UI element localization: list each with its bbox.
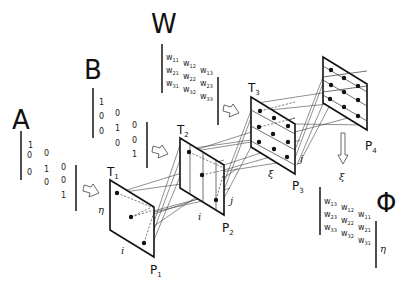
phi-axis-eta: η [380,243,386,254]
matrix-w: W w11 w12 w13 w21 w22 w23 w31 w32 w33 [151,9,218,125]
p2-axis-i: i [198,211,201,222]
svg-text:w11: w11 [166,53,179,63]
matrix-a-cell: 0 [61,176,66,185]
t3-label: T3 [247,81,260,97]
plane-p4: P4 [323,57,377,155]
matrix-b-cell: 0 [99,127,104,136]
arrow-w-to-p3-icon [223,104,239,117]
p4-label: P4 [365,139,377,155]
p3-axis-j: j [298,153,303,164]
svg-text:w31: w31 [358,236,371,246]
svg-text:w32: w32 [341,229,354,239]
svg-text:w22: w22 [341,216,354,226]
plane-p2: T2 P2 i j [176,123,234,237]
svg-text:w33: w33 [200,92,213,102]
p2-node [187,150,191,154]
p2-axis-j: j [228,195,233,206]
matrix-a-cell: 0 [44,178,49,187]
p2-node [200,173,204,177]
matrix-b: B 1 0 0 0 1 0 0 0 1 [84,55,147,168]
p1-node [129,215,133,219]
matrix-b-cell: 0 [132,136,137,145]
svg-text:w13: w13 [200,66,213,76]
svg-text:w13: w13 [324,197,337,207]
matrix-phi: Φ η w13 w12 w11 w23 w22 w21 w33 w32 w31 [320,187,396,268]
svg-text:w23: w23 [200,79,213,89]
p1-axis-eta: η [98,204,104,215]
p1-axis-i: i [121,245,124,256]
t2-label: T2 [176,123,189,139]
matrix-a-cell: 0 [44,149,49,158]
matrix-a-cell: 1 [61,191,66,200]
output-axis-xi: ξ [339,171,345,182]
matrix-a-cell: 0 [27,168,32,177]
p2-label: P2 [222,221,234,237]
matrix-a-cell: 0 [61,163,66,172]
matrix-a-cell: 1 [28,141,33,150]
p2-node [214,198,218,202]
svg-text:w21: w21 [166,66,179,76]
diagram-canvas: A 1 0 0 0 1 0 0 0 1 B 1 0 0 0 1 0 0 0 1 … [0,0,414,289]
matrix-phi-label: Φ [376,188,396,218]
matrix-a-cell: 0 [27,151,32,160]
matrix-b-cell: 1 [115,124,120,133]
matrix-a-cell: 1 [44,165,49,174]
matrix-b-label: B [84,55,102,85]
plane-p3: T3 P3 ξ j [247,81,304,195]
matrix-b-cell: 1 [132,150,137,159]
matrix-b-cell: 0 [115,139,120,148]
matrix-b-cell: 1 [99,98,104,107]
arrow-a-to-p1-icon [83,184,99,197]
svg-text:w21: w21 [358,223,371,233]
svg-text:w12: w12 [183,59,196,69]
arrow-b-to-p2-icon [152,145,168,158]
p3-axis-xi: ξ [268,168,274,179]
p1-label: P1 [150,263,162,279]
svg-text:w23: w23 [324,210,337,220]
matrix-w-label: W [151,9,177,39]
matrix-b-cell: 0 [115,109,120,118]
svg-text:w33: w33 [324,223,337,233]
matrix-b-cell: 0 [99,112,104,121]
p1-node [142,241,146,245]
svg-text:w32: w32 [183,85,196,95]
matrix-b-cell: 0 [132,121,137,130]
down-arrow-icon [338,133,348,164]
matrix-a: A 1 0 0 0 1 0 0 0 1 [12,105,76,211]
svg-text:w11: w11 [358,210,371,220]
svg-text:w31: w31 [166,79,179,89]
svg-text:w22: w22 [183,72,196,82]
p1-node [115,191,119,195]
p3-label: P3 [292,179,304,195]
t1-label: T1 [106,165,119,181]
svg-text:w12: w12 [341,203,354,213]
matrix-a-label: A [12,105,30,135]
